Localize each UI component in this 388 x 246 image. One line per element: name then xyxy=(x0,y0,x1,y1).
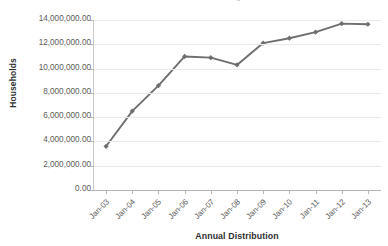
data-point-marker xyxy=(287,36,292,41)
gridline xyxy=(93,69,381,70)
data-point-marker xyxy=(313,30,318,35)
x-axis-tick-labels: Jan-03Jan-04Jan-05Jan-06Jan-07Jan-08Jan-… xyxy=(93,190,381,230)
gridline xyxy=(93,93,381,94)
gridline xyxy=(93,20,381,21)
gridline xyxy=(93,166,381,167)
y-tick-label: 12,000,000.00 xyxy=(8,39,91,47)
y-axis-tick-labels: 0.002,000,000.004,000,000.006,000,000.00… xyxy=(8,0,91,246)
y-tick-mark xyxy=(90,166,94,167)
y-tick-mark xyxy=(90,44,94,45)
y-tick-label: 14,000,000.00 xyxy=(8,15,91,23)
x-axis-title: Annual Distribution xyxy=(93,231,381,241)
gridline xyxy=(93,141,381,142)
y-tick-label: 4,000,000.00 xyxy=(8,136,91,144)
y-tick-label: 0.00 xyxy=(8,185,91,193)
series-line-households xyxy=(93,20,381,190)
y-tick-mark xyxy=(90,141,94,142)
y-tick-label: 2,000,000.00 xyxy=(8,161,91,169)
y-tick-mark xyxy=(90,117,94,118)
data-point-marker xyxy=(339,21,344,26)
y-tick-mark xyxy=(90,20,94,21)
plot-area xyxy=(93,20,381,190)
y-tick-label: 8,000,000.00 xyxy=(8,88,91,96)
clipped-chart-title: g xyxy=(236,0,240,1)
data-point-marker xyxy=(365,22,370,27)
y-tick-mark xyxy=(90,69,94,70)
y-tick-label: 10,000,000.00 xyxy=(8,64,91,72)
y-tick-label: 6,000,000.00 xyxy=(8,112,91,120)
y-tick-mark xyxy=(90,93,94,94)
data-point-marker xyxy=(208,55,213,60)
gridline xyxy=(93,44,381,45)
gridline xyxy=(93,117,381,118)
chart-container: g Households 0.002,000,000.004,000,000.0… xyxy=(0,0,388,246)
